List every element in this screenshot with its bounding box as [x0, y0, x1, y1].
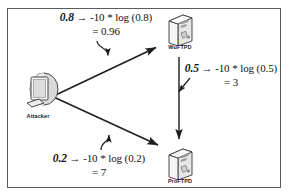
arrow-glyph: →	[77, 11, 88, 23]
edge-expression: -10 * log (0.8)	[90, 11, 152, 23]
edge-result: = 0.96	[54, 25, 158, 38]
edge-expression: -10 * log (0.5)	[215, 62, 277, 74]
caption-strip-artifact	[0, 0, 289, 7]
desktop-computer-icon	[22, 70, 66, 114]
edge-label-attacker-to-wuftpd: 0.8 → -10 * log (0.8) = 0.96	[54, 11, 158, 38]
figure-container: Attacker WuFTPD ProFTPD 0.8 → -10 * log …	[0, 0, 289, 196]
node-wuftpd-label: WuFTPD	[150, 44, 210, 50]
node-wuftpd[interactable]	[163, 12, 197, 46]
node-attacker-label: Attacker	[6, 113, 70, 119]
node-proftpd[interactable]	[163, 146, 197, 180]
arrow-glyph: →	[70, 152, 81, 164]
edge-probability: 0.8	[60, 11, 74, 23]
arrow-glyph: →	[202, 62, 213, 74]
edge-probability: 0.2	[53, 152, 67, 164]
node-attacker[interactable]	[22, 70, 66, 114]
edge-result: = 3	[178, 76, 284, 89]
edge-result: = 7	[46, 166, 152, 179]
edge-label-attacker-to-proftpd: 0.2 → -10 * log (0.2) = 7	[46, 152, 152, 179]
server-tower-icon	[163, 12, 197, 46]
edge-label-wuftpd-to-proftpd: 0.5 → -10 * log (0.5) = 3	[178, 62, 284, 89]
server-tower-icon	[163, 146, 197, 180]
edge-probability: 0.5	[185, 62, 199, 74]
edge-expression: -10 * log (0.2)	[83, 152, 145, 164]
node-proftpd-label: ProFTPD	[150, 178, 210, 184]
